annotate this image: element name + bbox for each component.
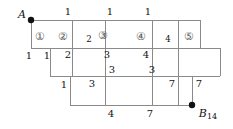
top-label-3: 1 [145,7,151,17]
point-B-dot [189,102,195,108]
row2-lower-label-3a: 3 [109,65,115,75]
inner-label-4-top: 4 [165,35,170,44]
row2-lower-label-3b: 3 [149,65,155,75]
top-label-2: 1 [107,7,113,17]
row2-label-2: 2 [65,50,71,60]
cell-1: ① [35,31,45,42]
diagram-canvas: ①②③④⑤111241123433137747AB14 [0,0,233,129]
row2-label-3: 3 [104,50,110,60]
inner-label-2-top: 2 [86,35,91,44]
top-label-1: 1 [65,7,71,17]
point-A-label: A [18,9,26,20]
cell-2: ② [58,31,68,42]
row3-label-3: 3 [89,79,95,89]
cell-5: ⑤ [184,31,194,42]
row3-label-1: 1 [61,80,67,90]
point-A-dot [28,17,34,23]
row3-label-7b: 7 [196,79,202,89]
cell-3: ③ [98,30,108,41]
row3-label-7a: 7 [169,79,175,89]
bottom-label-7: 7 [147,109,153,119]
point-B-label: B14 [199,108,217,121]
left-label-1a: 1 [26,51,32,61]
left-label-1b: 1 [44,51,50,61]
row2-label-4: 4 [143,50,149,60]
cell-4: ④ [136,31,146,42]
bottom-label-4: 4 [108,109,114,119]
